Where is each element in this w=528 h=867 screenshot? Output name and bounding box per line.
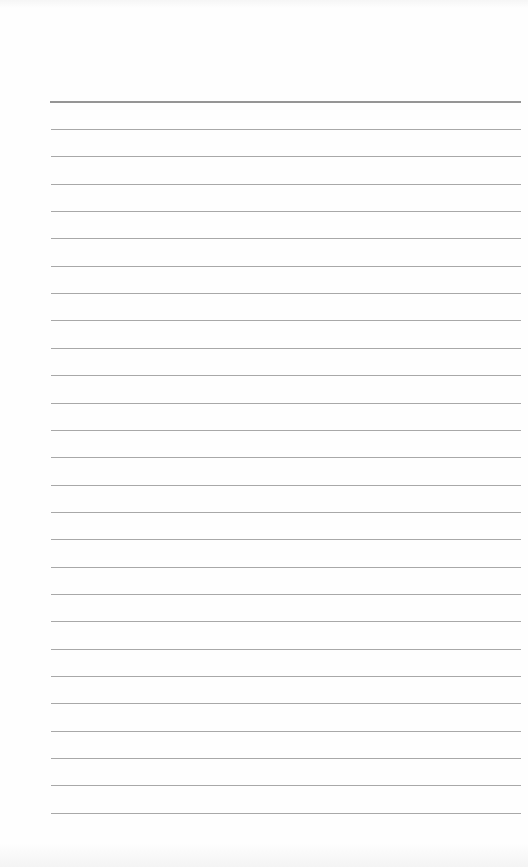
ruled-line <box>51 184 521 185</box>
ruled-line <box>51 649 521 650</box>
scan-bleed-top <box>0 0 528 8</box>
ruled-line <box>51 785 521 786</box>
ruled-line <box>51 539 521 540</box>
ruled-line <box>51 485 521 486</box>
ruled-line <box>51 731 521 732</box>
ruled-line <box>51 403 521 404</box>
ruled-line <box>51 676 521 677</box>
ruled-line <box>51 320 521 321</box>
ruled-line <box>51 621 521 622</box>
ruled-line <box>51 430 521 431</box>
ruled-line <box>51 266 521 267</box>
ruled-line <box>51 512 521 513</box>
scan-bleed-bottom <box>0 843 528 867</box>
ruled-line <box>51 156 521 157</box>
header-rule <box>50 101 521 103</box>
ruled-line <box>51 375 521 376</box>
ruled-line <box>51 567 521 568</box>
ruled-line <box>51 129 521 130</box>
ruled-line <box>51 457 521 458</box>
ruled-line <box>51 703 521 704</box>
ruled-line <box>51 758 521 759</box>
ruled-line <box>51 813 521 814</box>
ruled-line <box>51 594 521 595</box>
ruled-line <box>51 238 521 239</box>
ruled-line <box>51 348 521 349</box>
ruled-line <box>51 211 521 212</box>
lined-paper-page <box>0 0 528 867</box>
ruled-line <box>51 293 521 294</box>
